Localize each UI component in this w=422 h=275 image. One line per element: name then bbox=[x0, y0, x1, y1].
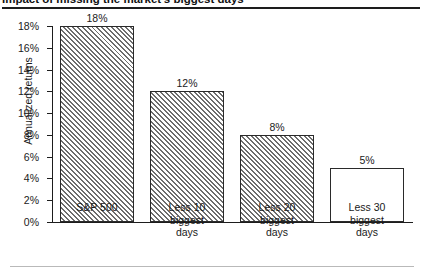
x-axis-label-line: days bbox=[322, 226, 412, 239]
y-tick-4pct: 4% bbox=[47, 178, 52, 179]
bar-value-label: 8% bbox=[269, 121, 284, 133]
page-title: Impact of missing the market's biggest d… bbox=[2, 0, 244, 5]
x-axis-label-line: Less 30 bbox=[322, 201, 412, 214]
x-axis-label-line: Less 20 bbox=[232, 201, 322, 214]
x-axis-label: Less 10biggestdays bbox=[142, 201, 232, 239]
y-tick-label: 2% bbox=[0, 194, 39, 206]
y-tick-label: 16% bbox=[0, 42, 39, 54]
y-tick-8pct: 8% bbox=[47, 135, 52, 136]
chart-figure: Impact of missing the market's biggest d… bbox=[0, 0, 422, 275]
x-axis-label-line: days bbox=[142, 226, 232, 239]
y-tick-label: 10% bbox=[0, 107, 39, 119]
y-tick-label: 8% bbox=[0, 129, 39, 141]
y-axis-line bbox=[52, 26, 53, 223]
bar: 18% bbox=[60, 26, 134, 222]
plot-area: 18%16%14%12%10%8%6%4%2%0% 18%12%8%5% bbox=[52, 26, 412, 222]
y-tick-12pct: 12% bbox=[47, 91, 52, 92]
bar-value-label: 12% bbox=[176, 77, 197, 89]
x-axis-label-line: Less 10 bbox=[142, 201, 232, 214]
y-tick-6pct: 6% bbox=[47, 157, 52, 158]
y-tick-label: 0% bbox=[0, 216, 39, 228]
y-tick-label: 12% bbox=[0, 85, 39, 97]
header-rule bbox=[2, 7, 420, 9]
x-axis-label: Less 20biggestdays bbox=[232, 201, 322, 239]
x-axis-label-line: S&P 500 bbox=[52, 201, 142, 214]
y-tick-16pct: 16% bbox=[47, 48, 52, 49]
x-axis-label: Less 30biggestdays bbox=[322, 201, 412, 239]
bar-value-label: 5% bbox=[359, 154, 374, 166]
footer-rule bbox=[10, 266, 414, 267]
y-tick-0pct: 0% bbox=[47, 222, 52, 223]
bar-value-label: 18% bbox=[86, 12, 107, 24]
y-tick-18pct: 18% bbox=[47, 26, 52, 27]
y-tick-label: 18% bbox=[0, 20, 39, 32]
x-axis-label: S&P 500 bbox=[52, 201, 142, 214]
x-axis-label-line: biggest bbox=[232, 214, 322, 227]
y-tick-label: 6% bbox=[0, 151, 39, 163]
chart-title-clipped: Impact of missing the market's biggest d… bbox=[0, 0, 422, 7]
y-tick-10pct: 10% bbox=[47, 113, 52, 114]
y-tick-14pct: 14% bbox=[47, 70, 52, 71]
x-axis-label-line: biggest bbox=[322, 214, 412, 227]
y-tick-label: 14% bbox=[0, 64, 39, 76]
x-axis-label-line: biggest bbox=[142, 214, 232, 227]
y-tick-label: 4% bbox=[0, 172, 39, 184]
x-axis-label-line: days bbox=[232, 226, 322, 239]
